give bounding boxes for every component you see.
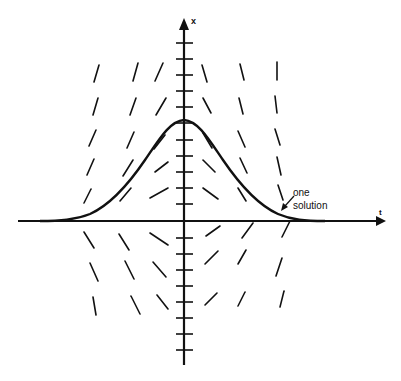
annotation-line-1: one [293, 186, 327, 199]
t-axis [18, 216, 386, 226]
t-axis-label: t [379, 208, 382, 217]
x-axis-arrow-icon [179, 18, 189, 30]
x-axis [176, 18, 193, 365]
solution-curve [40, 120, 325, 221]
t-axis-arrow-icon [376, 216, 386, 226]
solution-annotation: one solution [293, 186, 327, 212]
slope-field-diagram: x t one solution [0, 0, 401, 381]
diagram-canvas [0, 0, 401, 381]
x-axis-label: x [191, 16, 196, 26]
annotation-line-2: solution [293, 199, 327, 212]
